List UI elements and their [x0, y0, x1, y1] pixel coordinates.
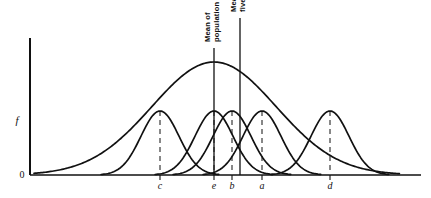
y-axis-label: f [15, 114, 20, 126]
x-tick-label-a: a [260, 180, 265, 191]
statistics-distribution-figure: f 0 cebad Mean ofpopulationMean offive s… [0, 0, 431, 198]
annotation-label-line: population [212, 1, 221, 42]
x-axis-tick-labels: cebad [158, 175, 334, 191]
axes-group [30, 38, 421, 175]
annotation-label-mean-of-five-sets: Mean offive sets [229, 0, 247, 12]
dashed-peak-markers [160, 111, 330, 175]
curve-population [34, 62, 399, 174]
plot-canvas: f 0 cebad Mean ofpopulationMean offive s… [0, 0, 431, 198]
origin-label: 0 [20, 169, 25, 180]
distribution-curves [34, 62, 399, 174]
x-tick-label-c: c [158, 180, 163, 191]
annotation-label-mean-of-population: Mean ofpopulation [203, 1, 221, 42]
annotation-label-line: five sets [238, 0, 247, 12]
x-tick-label-d: d [328, 180, 334, 191]
x-tick-label-b: b [230, 180, 235, 191]
annotation-label-line: Mean of [203, 12, 212, 42]
annotation-label-line: Mean of [229, 0, 238, 12]
x-tick-label-e: e [212, 180, 217, 191]
